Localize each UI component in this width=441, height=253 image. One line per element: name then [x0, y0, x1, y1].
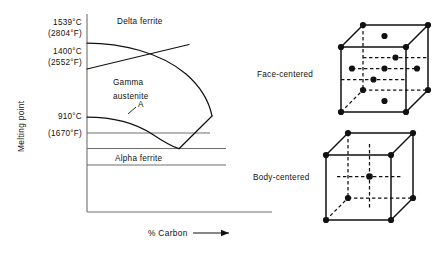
fcc-atom-corner-3 — [403, 109, 409, 115]
fcc-atom-corner-6 — [425, 22, 431, 28]
fcc-diag-tr — [406, 25, 428, 47]
bcc-atom-corner-8 — [345, 195, 351, 201]
annotation-a-leader — [128, 107, 136, 114]
bcc-atom-corner-3 — [388, 217, 394, 223]
fcc-atom-face-center — [381, 65, 387, 71]
bcc-atom-corner-5 — [345, 130, 351, 136]
bcc-atom-corner-6 — [410, 130, 416, 136]
bcc-diag-tr — [391, 133, 413, 155]
label-delta-ferrite: Delta ferrite — [117, 17, 163, 26]
bcc-atom-corner-4 — [323, 217, 329, 223]
temp-label-910c: 910°C — [58, 112, 82, 121]
gamma-right-boundary — [179, 116, 212, 149]
face-centered-cube-group: Face-centered — [257, 22, 431, 115]
bcc-atom-corner-2 — [388, 152, 394, 158]
label-alpha-ferrite: Alpha ferrite — [115, 154, 163, 163]
figure-root: A 1539°C (2804°F) 1400°C (2552°F) 910°C … — [0, 0, 441, 253]
fcc-atom-corner-4 — [338, 109, 344, 115]
bcc-diag-br — [391, 198, 413, 220]
x-axis-arrow-head — [221, 230, 229, 236]
bcc-diag-tl — [326, 133, 348, 155]
fcc-atom-corner-7 — [425, 87, 431, 93]
fcc-diag-tl — [341, 25, 363, 47]
label-body-centered: Body-centered — [253, 173, 310, 182]
phase-diagram-axes — [87, 14, 272, 212]
bcc-hidden-diag-bl — [326, 198, 348, 220]
phase-region-labels: Delta ferrite Gamma austenite Alpha ferr… — [113, 17, 163, 163]
fcc-atom-corner-8 — [360, 87, 366, 93]
fcc-atom-corner-5 — [360, 22, 366, 28]
fcc-atom-corner-2 — [403, 44, 409, 50]
body-centered-cube-group: Body-centered — [253, 130, 416, 223]
temp-label-2552f: (2552°F) — [48, 58, 82, 67]
x-axis-title: % Carbon — [148, 228, 188, 238]
fcc-atom-face-top — [381, 33, 387, 39]
annotation-a: A — [128, 100, 144, 114]
fcc-atom-face-right — [414, 65, 420, 71]
bcc-atom-corner-7 — [410, 195, 416, 201]
temperature-labels: 1539°C (2804°F) 1400°C (2552°F) 910°C (1… — [48, 18, 82, 138]
fcc-atom-face-bottom — [381, 98, 387, 104]
temp-label-2804f: (2804°F) — [48, 29, 82, 38]
bcc-atom-corner-1 — [323, 152, 329, 158]
fcc-atom-face-front — [370, 76, 376, 82]
y-axis-title: Melting point — [16, 100, 26, 152]
label-gamma: Gamma — [113, 78, 144, 87]
fcc-atom-face-back — [392, 54, 398, 60]
fcc-diag-br — [406, 90, 428, 112]
fcc-atom-face-left — [349, 65, 355, 71]
figure-svg: A 1539°C (2804°F) 1400°C (2552°F) 910°C … — [0, 0, 441, 253]
temp-label-1400c: 1400°C — [53, 47, 82, 56]
fcc-hidden-diag-bl — [341, 90, 363, 112]
annotation-a-label: A — [138, 100, 144, 109]
fcc-atom-corner-1 — [338, 44, 344, 50]
label-austenite: austenite — [113, 92, 149, 101]
temp-label-1539c: 1539°C — [53, 18, 82, 27]
label-face-centered: Face-centered — [257, 70, 313, 79]
x-axis-title-group: % Carbon — [148, 228, 229, 238]
temp-label-1670f: (1670°F) — [48, 129, 82, 138]
bcc-atom-body-center — [366, 173, 373, 180]
